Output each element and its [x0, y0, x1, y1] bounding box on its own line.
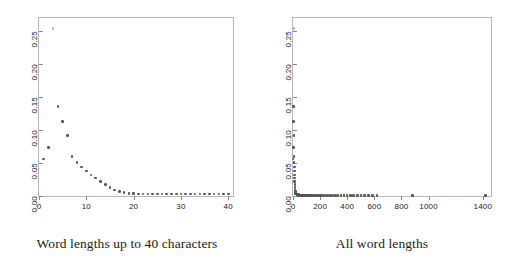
x-tick-label: 40: [224, 202, 233, 211]
data-point: [85, 170, 88, 173]
x-tick-label: 600: [367, 202, 381, 211]
data-point: [57, 105, 60, 108]
data-point: [293, 174, 296, 177]
data-point: [292, 158, 295, 161]
data-point: [203, 193, 206, 196]
data-point: [118, 190, 121, 193]
data-point: [349, 194, 352, 197]
y-tick-label: 0.20: [284, 64, 293, 80]
data-point: [42, 158, 45, 161]
data-point: [71, 155, 74, 158]
data-point: [292, 120, 295, 123]
figure-two-scatter-panels: 0.000.050.100.150.200.25010203040 Word l…: [0, 0, 509, 277]
data-point: [128, 192, 131, 195]
data-point: [175, 193, 178, 196]
data-point: [360, 194, 363, 197]
data-point: [99, 180, 102, 183]
data-point: [376, 194, 379, 197]
x-tick-mark: [228, 196, 229, 200]
x-tick-label: 1400: [474, 202, 493, 211]
data-point: [227, 193, 230, 196]
data-point: [293, 170, 296, 173]
y-tick-label: 0.25: [284, 31, 293, 47]
data-point: [208, 193, 211, 196]
data-point: [47, 146, 50, 149]
data-point: [165, 193, 168, 196]
plot-frame-left: 0.000.050.100.150.200.25010203040: [38, 17, 234, 197]
data-point: [356, 194, 359, 197]
data-point: [113, 189, 116, 192]
x-tick-label: 800: [395, 202, 409, 211]
y-tick-label: 0.05: [284, 163, 293, 179]
y-tick-label: 0.10: [284, 130, 293, 146]
y-tick-mark: [39, 97, 43, 98]
data-point: [352, 194, 355, 197]
x-tick-label: 20: [129, 202, 138, 211]
data-point: [90, 174, 93, 177]
x-tick-label: 400: [340, 202, 354, 211]
y-tick-mark: [39, 130, 43, 131]
data-point: [156, 193, 159, 196]
data-point: [213, 193, 216, 196]
x-tick-mark: [181, 196, 182, 200]
data-point: [66, 134, 69, 137]
data-point: [199, 193, 202, 196]
y-tick-label: 0.15: [30, 97, 39, 113]
data-point: [363, 194, 366, 197]
data-point: [411, 194, 414, 197]
data-point: [104, 183, 107, 186]
y-tick-mark: [39, 31, 43, 32]
data-point: [293, 155, 296, 158]
x-tick-label: 0: [37, 202, 42, 211]
plot-frame-right: 0.000.050.100.150.200.250200400600800100…: [292, 17, 492, 197]
data-point: [76, 161, 79, 164]
y-tick-label: 0.20: [30, 64, 39, 80]
plot-area-left: 0.000.050.100.150.200.25010203040: [39, 18, 233, 196]
data-point: [343, 194, 346, 197]
x-tick-mark: [293, 196, 294, 200]
data-point: [222, 193, 225, 196]
data-point: [340, 194, 343, 197]
data-point: [184, 193, 187, 196]
x-tick-label: 0: [291, 202, 296, 211]
plot-area-right: 0.000.050.100.150.200.250200400600800100…: [293, 18, 491, 196]
panel-all-word-lengths: 0.000.050.100.150.200.250200400600800100…: [255, 0, 509, 277]
data-point: [161, 193, 164, 196]
y-tick-label: 0.25: [30, 31, 39, 47]
data-point: [94, 177, 97, 180]
x-tick-mark: [134, 196, 135, 200]
data-point: [180, 193, 183, 196]
data-point: [292, 27, 295, 30]
data-point: [52, 27, 55, 30]
data-point: [292, 146, 295, 149]
x-tick-label: 10: [82, 202, 91, 211]
data-point: [109, 186, 112, 189]
caption-left: Word lengths up to 40 characters: [0, 236, 254, 252]
y-tick-mark: [293, 97, 297, 98]
x-tick-label: 1000: [419, 202, 438, 211]
y-tick-mark: [39, 64, 43, 65]
data-point: [367, 194, 370, 197]
caption-right: All word lengths: [255, 236, 509, 252]
data-point: [293, 134, 296, 137]
y-tick-mark: [293, 64, 297, 65]
data-point: [61, 120, 64, 123]
panel-word-lengths-40: 0.000.050.100.150.200.25010203040 Word l…: [0, 0, 254, 277]
y-tick-mark: [293, 31, 297, 32]
x-tick-mark: [39, 196, 40, 200]
data-point: [123, 191, 126, 194]
x-tick-label: 200: [313, 202, 327, 211]
y-tick-label: 0.15: [284, 97, 293, 113]
data-point: [170, 193, 173, 196]
data-point: [151, 193, 154, 196]
data-point: [371, 194, 374, 197]
x-tick-mark: [401, 196, 402, 200]
data-point: [142, 193, 145, 196]
y-tick-mark: [39, 163, 43, 164]
data-point: [194, 193, 197, 196]
x-tick-mark: [86, 196, 87, 200]
data-point: [147, 193, 150, 196]
x-tick-mark: [429, 196, 430, 200]
y-tick-mark: [293, 130, 297, 131]
data-point: [218, 193, 221, 196]
